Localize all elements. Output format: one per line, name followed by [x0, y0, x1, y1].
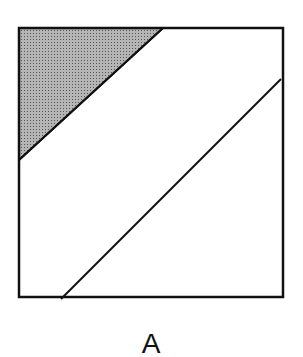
lower-diagonal-line [61, 79, 281, 299]
figure-label: A [136, 330, 166, 357]
